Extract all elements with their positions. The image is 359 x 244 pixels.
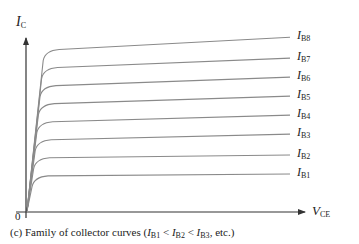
y-axis-label-sub: C	[21, 21, 26, 30]
curve-label-ib8: IB8	[297, 28, 310, 43]
figure-caption: (c) Family of collector curves (IB1 < IB…	[10, 226, 234, 240]
curve-label-ib7: IB7	[297, 49, 310, 64]
curve-ib2	[27, 155, 290, 211]
x-axis-label-main: V	[312, 203, 320, 218]
curve-label-ib4: IB4	[297, 106, 310, 121]
caption-term-2: IB2	[172, 226, 185, 238]
caption-suffix: , etc.)	[210, 226, 235, 238]
caption-term-1: IB1	[147, 226, 160, 238]
curve-label-ib3: IB3	[297, 125, 310, 140]
curve-label-ib5: IB5	[297, 87, 310, 102]
x-axis-label-sub: CE	[320, 210, 330, 219]
origin-label: 0	[15, 210, 21, 222]
curve-ib4	[27, 115, 290, 211]
curve-ib1	[27, 174, 290, 211]
caption-prefix: (c) Family of collector curves (	[10, 226, 147, 238]
curve-label-ib2: IB2	[297, 146, 310, 161]
curve-label-ib6: IB6	[297, 68, 310, 83]
curve-label-ib1: IB1	[297, 165, 310, 180]
caption-term-3: IB3	[197, 226, 210, 238]
curve-group	[27, 37, 290, 211]
x-axis-label: VCE	[312, 203, 330, 219]
curve-ib5	[27, 96, 290, 211]
caption-separator: <	[160, 226, 172, 238]
caption-separator: <	[185, 226, 197, 238]
curve-ib3	[27, 134, 290, 211]
y-axis-label: IC	[16, 14, 26, 30]
